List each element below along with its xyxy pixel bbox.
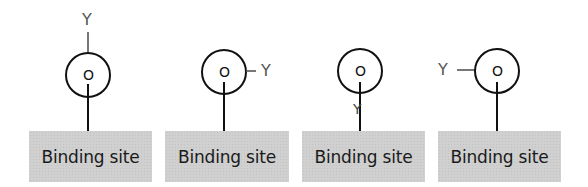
substituent-label-y: Y xyxy=(353,102,362,116)
binding-site-box: Binding site xyxy=(438,131,561,182)
center-label-o: O xyxy=(492,64,503,78)
binding-site-box: Binding site xyxy=(29,131,152,182)
center-label-o: O xyxy=(83,68,94,82)
panel-2-molecule xyxy=(202,50,256,131)
substituent-label-y: Y xyxy=(261,63,271,79)
binding-orientation-diagram: Y O Binding site Y O Binding site Y O Bi… xyxy=(0,0,588,187)
panel-4-molecule xyxy=(457,49,519,131)
panel-3-molecule xyxy=(338,49,382,131)
binding-site-box: Binding site xyxy=(302,131,425,182)
substituent-label-y: Y xyxy=(82,12,92,28)
binding-site-box: Binding site xyxy=(165,131,289,182)
center-label-o: O xyxy=(355,64,366,78)
substituent-label-y: Y xyxy=(438,62,448,78)
center-label-o: O xyxy=(219,65,230,79)
